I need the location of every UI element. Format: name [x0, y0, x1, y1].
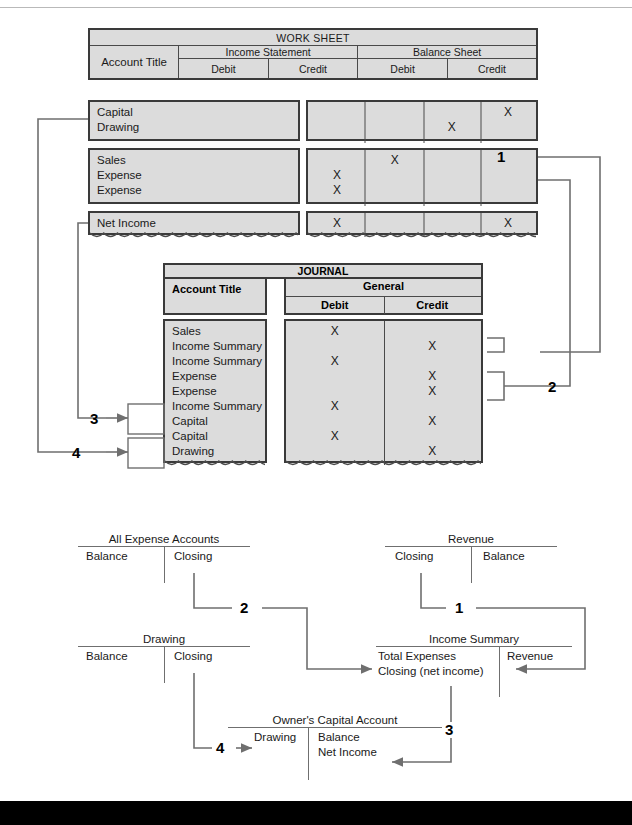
t-account-name: Owner's Capital Account — [228, 713, 442, 727]
journal-credit: X — [384, 384, 482, 399]
journal-account: Sales — [165, 324, 265, 339]
t-debit-entry: Total Expenses — [378, 649, 456, 664]
marker-1-worksheet: 1 — [497, 148, 505, 165]
t-debit-entry: Closing (net income) — [378, 664, 483, 679]
t-debit-entry: Balance — [86, 549, 128, 564]
journal-account: Expense — [165, 384, 265, 399]
torn-edge — [286, 460, 481, 468]
journal: JOURNAL Account Title General Debit Cred… — [163, 263, 483, 463]
torn-edge — [165, 460, 265, 468]
t-account-name: Income Summary — [376, 632, 572, 646]
t-debit-entry: Balance — [86, 649, 128, 664]
journal-group-general: General — [286, 279, 481, 297]
t-account-expense: All Expense Accounts Balance Closing — [78, 532, 250, 583]
ws-group-balance-sheet: Balance Sheet — [358, 46, 537, 59]
journal-credit: X — [384, 369, 482, 384]
journal-col-account-title: Account Title — [165, 279, 265, 295]
journal-amounts-panel: X X X X X X X X X — [284, 319, 483, 463]
t-credit-entry: Balance — [483, 549, 525, 564]
t-credit-entry: Closing — [174, 549, 212, 564]
t-credit-entry: Closing — [174, 649, 212, 664]
marker-2-t-accounts: 2 — [240, 599, 248, 616]
journal-debit: X — [286, 354, 384, 369]
journal-account: Capital — [165, 414, 265, 429]
ws-sub-bs-debit: Debit — [358, 59, 448, 80]
ws-sub-is-credit: Credit — [268, 59, 358, 80]
ws-sub-is-debit: Debit — [179, 59, 269, 80]
ws-row-sales-expenses: Sales Expense Expense X X — [88, 148, 538, 204]
ws-row-capital-drawing: Capital Drawing X X — [88, 100, 538, 141]
t-debit-entry: Drawing — [254, 730, 296, 745]
marker-4-t-accounts: 4 — [216, 739, 224, 756]
ws-grid-1 — [306, 102, 538, 143]
journal-title: JOURNAL — [163, 263, 483, 279]
ws-col-account-title: Account Title — [89, 46, 179, 80]
journal-debit: X — [286, 399, 384, 414]
t-debit-entry: Closing — [395, 549, 433, 564]
diagram-canvas: WORK SHEET Account Title Income Statemen… — [0, 0, 632, 825]
t-account-capital: Owner's Capital Account Drawing Balance … — [228, 713, 442, 780]
t-account-name: All Expense Accounts — [78, 532, 250, 546]
journal-credit: X — [384, 339, 482, 354]
journal-debit: X — [286, 324, 384, 339]
t-account-name: Revenue — [385, 532, 557, 546]
journal-sub-debit: Debit — [286, 297, 384, 313]
ws-account: Net Income — [90, 216, 298, 231]
torn-edge — [308, 232, 536, 240]
wire-2-to-total-expenses — [262, 608, 372, 669]
journal-credit: X — [384, 414, 482, 429]
ws-group-income-statement: Income Statement — [179, 46, 358, 59]
journal-left-brackets — [120, 400, 180, 480]
wire-journal-bracket-b — [487, 372, 504, 400]
ws-account: Sales — [90, 153, 298, 168]
ws-row-net-income: Net Income X X — [88, 211, 538, 235]
wire-netincome-to-3 — [78, 223, 106, 418]
marker-3-journal: 3 — [90, 410, 98, 427]
ws-account: Expense — [90, 183, 298, 198]
ws-account: Capital — [90, 105, 298, 120]
ws-account: Drawing — [90, 120, 298, 135]
wire-journal-bracket-a — [487, 338, 504, 352]
journal-account: Income Summary — [165, 354, 265, 369]
journal-sub-credit: Credit — [384, 297, 482, 313]
t-credit-entry: Net Income — [318, 745, 377, 760]
marker-2-journal: 2 — [548, 378, 556, 395]
t-account-drawing: Drawing Balance Closing — [78, 632, 250, 683]
t-account-income-summary: Income Summary Total Expenses Closing (n… — [376, 632, 572, 697]
torn-edge — [90, 232, 298, 240]
journal-account: Drawing — [165, 444, 265, 459]
marker-1-t-accounts: 1 — [455, 599, 463, 616]
journal-account: Income Summary — [165, 339, 265, 354]
t-account-revenue: Revenue Closing Balance — [385, 532, 557, 583]
journal-account: Capital — [165, 429, 265, 444]
t-account-name: Drawing — [78, 632, 250, 646]
t-credit-entry: Revenue — [507, 649, 553, 664]
journal-debit: X — [286, 429, 384, 444]
wire-drawing-closing-to-4 — [194, 673, 212, 748]
page-bottom-bar — [0, 801, 632, 825]
marker-3-t-accounts: 3 — [445, 721, 453, 738]
journal-account: Expense — [165, 369, 265, 384]
t-credit-entry: Balance — [318, 730, 360, 745]
marker-4-journal: 4 — [72, 444, 80, 461]
work-sheet-title: WORK SHEET — [89, 29, 537, 46]
journal-account: Income Summary — [165, 399, 265, 414]
work-sheet-header: WORK SHEET Account Title Income Statemen… — [88, 28, 538, 80]
ws-account: Expense — [90, 168, 298, 183]
journal-credit: X — [384, 444, 482, 459]
ws-sub-bs-credit: Credit — [447, 59, 537, 80]
